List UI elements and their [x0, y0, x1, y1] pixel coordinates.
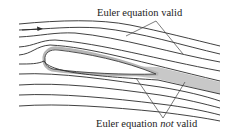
- streamline-8: [19, 84, 220, 108]
- airfoil-flow-diagram: [0, 0, 230, 137]
- label-euler-valid: Euler equation valid: [97, 8, 182, 19]
- flow-arrow-icon: [22, 27, 43, 32]
- label-suffix: valid: [174, 118, 198, 129]
- label-emphasis-not: not: [160, 118, 173, 129]
- label-euler-not-valid: Euler equation not valid: [96, 119, 197, 130]
- streamline-1: [19, 21, 220, 46]
- label-prefix: Euler equation: [96, 118, 160, 129]
